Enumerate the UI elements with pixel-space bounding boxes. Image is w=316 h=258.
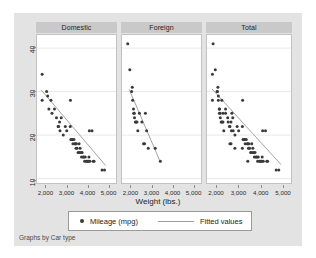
data-point — [245, 138, 248, 141]
data-point — [138, 112, 141, 115]
scatter-svg-domestic — [37, 35, 116, 183]
data-point — [228, 125, 231, 128]
x-tick-mark — [261, 185, 262, 188]
data-point — [254, 151, 257, 154]
x-tick-mark — [45, 185, 46, 188]
x-tick-label: 4,000 — [253, 189, 268, 196]
data-point — [50, 112, 53, 115]
data-point — [261, 155, 264, 158]
x-tick-mark — [173, 185, 174, 188]
data-point — [79, 147, 82, 150]
y-axis: 10203040 — [14, 34, 36, 184]
data-point — [131, 86, 134, 89]
data-point — [84, 155, 87, 158]
x-tick-mark — [283, 185, 284, 188]
x-tick-mark — [88, 185, 89, 188]
data-point — [237, 129, 240, 132]
panel-title-domestic: Domestic — [36, 22, 117, 33]
scatter-svg-foreign — [122, 35, 201, 183]
chart-screenshot: 10203040 Domestic Foreign Total — [0, 0, 316, 258]
data-point — [250, 142, 253, 145]
data-point — [144, 112, 147, 115]
clipped-header-text — [0, 0, 316, 11]
data-point — [133, 112, 136, 115]
data-point — [230, 112, 233, 115]
data-point — [87, 155, 90, 158]
data-point — [219, 116, 222, 119]
x-tick-mark — [109, 185, 110, 188]
x-tick-label: 3,000 — [231, 189, 246, 196]
legend-label-fitted: Fitted values — [200, 217, 243, 226]
data-point — [46, 94, 49, 97]
data-point — [90, 129, 93, 132]
data-point — [53, 108, 56, 111]
data-point — [217, 94, 220, 97]
legend-label-mileage: Mileage (mpg) — [90, 217, 138, 226]
panel-total: Total — [206, 22, 292, 184]
data-point — [60, 116, 63, 119]
data-point — [221, 121, 224, 124]
data-point — [154, 147, 157, 150]
x-tick-label: 5,000 — [275, 189, 290, 196]
scatter-svg-total — [207, 35, 291, 183]
data-point — [126, 42, 129, 45]
data-point — [81, 151, 84, 154]
data-point — [241, 99, 244, 102]
data-point — [49, 99, 52, 102]
data-point — [233, 134, 236, 137]
data-point — [159, 160, 162, 163]
data-point — [55, 116, 58, 119]
data-point — [57, 125, 60, 128]
data-point — [58, 129, 61, 132]
data-point — [230, 142, 233, 145]
data-point — [130, 90, 133, 93]
data-point — [231, 116, 234, 119]
x-tick-mark — [130, 185, 131, 188]
data-point — [212, 42, 215, 45]
data-point — [69, 99, 72, 102]
data-point — [88, 160, 91, 163]
data-point — [214, 68, 217, 71]
panel-foreign: Foreign — [121, 22, 202, 184]
x-tick-label: 4,000 — [165, 189, 180, 196]
data-point — [88, 129, 91, 132]
data-point — [62, 134, 65, 137]
data-point — [147, 147, 150, 150]
data-point — [218, 108, 221, 111]
x-tick-mark — [216, 185, 217, 188]
x-axis-total: 2,0003,0004,0005,000 — [206, 185, 292, 197]
data-point — [241, 125, 244, 128]
legend-item-mileage: Mileage (mpg) — [80, 217, 138, 226]
data-point — [136, 129, 139, 132]
data-point — [230, 121, 233, 124]
data-point — [69, 125, 72, 128]
data-point — [216, 90, 219, 93]
data-point — [72, 138, 75, 141]
data-point — [220, 99, 223, 102]
data-point — [75, 142, 78, 145]
data-point — [261, 129, 264, 132]
x-tick-label: 2,000 — [38, 189, 53, 196]
data-point — [216, 86, 219, 89]
data-point — [221, 112, 224, 115]
legend-item-fitted: Fitted values — [158, 217, 243, 226]
graph-frame: 10203040 Domestic Foreign Total — [14, 13, 302, 246]
data-point — [217, 99, 220, 102]
data-point — [93, 160, 96, 163]
x-axis-foreign: 2,0003,0004,0005,000 — [121, 185, 202, 197]
data-point — [131, 99, 134, 102]
data-point — [251, 147, 254, 150]
x-tick-label: 3,000 — [144, 189, 159, 196]
data-point — [232, 129, 235, 132]
legend-line-icon — [158, 221, 194, 222]
data-point — [275, 168, 278, 171]
footer-note: Graphs by Car type — [19, 234, 75, 241]
data-point — [266, 160, 269, 163]
x-tick-label: 2,000 — [123, 189, 138, 196]
data-point — [41, 73, 44, 76]
data-point — [222, 129, 225, 132]
x-tick-label: 5,000 — [101, 189, 116, 196]
data-point — [224, 108, 227, 111]
plot-area-domestic — [36, 34, 117, 184]
data-point — [236, 125, 239, 128]
